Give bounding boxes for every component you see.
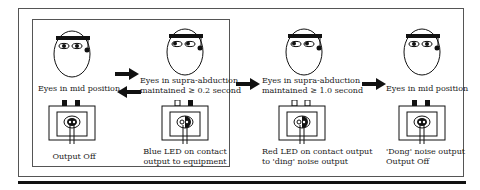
device-output-off-icon <box>48 100 98 148</box>
stage-3-face-caption-line-1: Eyes in supra-abduction <box>262 76 352 86</box>
face-mid-position-icon <box>52 27 96 79</box>
stage-3-device-caption-line-2: to 'ding' noise output <box>262 157 362 167</box>
bottom-rule <box>18 181 466 184</box>
stage-4-device-caption-line-1: 'Dong' noise output <box>386 147 466 157</box>
device-red-led-icon <box>278 100 328 148</box>
stage-3-device-caption-line-1: Red LED on contact output <box>262 147 362 157</box>
device-output-off-icon <box>398 100 448 148</box>
right-arrow-icon <box>115 68 139 80</box>
face-supra-abduction-icon <box>165 25 209 77</box>
stage-2-face-caption-line-1: Eyes in supra-abduction <box>140 76 230 86</box>
right-arrow-icon <box>362 78 386 90</box>
left-arrow-icon <box>117 86 141 98</box>
stage-2-face-caption-line-2: maintained ≥ 0.2 second <box>140 86 230 96</box>
stage-3-face-caption-line-2: maintained ≥ 1.0 second <box>262 86 352 96</box>
stage-1-device-caption: Output Off <box>34 152 114 162</box>
device-blue-led-icon <box>161 100 211 148</box>
face-mid-position-icon <box>402 25 446 77</box>
stage-2-device-caption-line-1: Blue LED on contact <box>140 147 230 157</box>
stage-4-face-caption: Eyes in mid position <box>386 84 466 94</box>
stage-2-device-caption-line-2: output to equipment <box>140 157 230 167</box>
face-supra-abduction-icon <box>284 25 328 77</box>
stage-4-device-caption-line-2: Output Off <box>386 157 466 167</box>
stage-1-face-caption: Eyes in mid position <box>34 84 124 94</box>
right-arrow-icon <box>236 78 260 90</box>
